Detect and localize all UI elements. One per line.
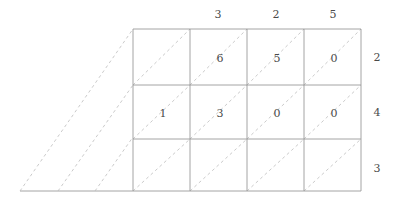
cell-diagonal-r3c1 bbox=[133, 139, 190, 191]
triangle-hypotenuse-diagonal bbox=[20, 29, 133, 191]
cell-diagonal-r1c1 bbox=[133, 29, 190, 85]
cell-diagonal-r2c2 bbox=[190, 85, 247, 139]
cell-diagonal-r2c4 bbox=[304, 85, 361, 139]
cell-diagonal-r1c3 bbox=[247, 29, 304, 85]
cell-diagonal-r3c3 bbox=[247, 139, 304, 191]
triangle-diagonal-2 bbox=[58, 85, 133, 191]
cell-diagonal-r3c4 bbox=[304, 139, 361, 191]
cell-diagonal-r2c3 bbox=[247, 85, 304, 139]
diagram-canvas bbox=[0, 0, 397, 210]
cell-diagonal-r1c2 bbox=[190, 29, 247, 85]
triangle-region bbox=[20, 29, 133, 191]
cell-diagonal-r2c1 bbox=[133, 85, 190, 139]
lattice-diagram-figure: 3 2 5 2 4 3 6 5 0 1 3 0 0 bbox=[0, 0, 397, 210]
cell-diagonal-r1c4 bbox=[304, 29, 361, 85]
triangle-diagonal-3 bbox=[95, 137, 133, 191]
cell-diagonal-r3c2 bbox=[190, 139, 247, 191]
grid-lines bbox=[133, 29, 361, 191]
